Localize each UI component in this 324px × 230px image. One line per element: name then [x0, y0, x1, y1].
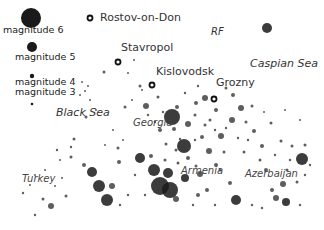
earthquake-dot: [163, 168, 173, 178]
legend-marker-icon: [31, 103, 34, 106]
earthquake-dot: [225, 127, 227, 129]
earthquake-dot: [165, 143, 168, 146]
earthquake-dot: [270, 188, 274, 192]
earthquake-dot: [177, 162, 180, 165]
city-label: Stavropol: [121, 42, 173, 53]
earthquake-dot: [122, 139, 124, 141]
earthquake-dot: [223, 151, 226, 154]
earthquake-dot: [133, 59, 135, 61]
earthquake-dot: [184, 92, 186, 94]
earthquake-dot: [127, 72, 129, 74]
earthquake-dot: [284, 109, 286, 111]
earthquake-dot: [65, 195, 68, 198]
earthquake-dot: [214, 108, 218, 112]
earthquake-dot: [104, 144, 106, 146]
earthquake-dot: [247, 139, 249, 141]
earthquake-dot: [134, 174, 136, 176]
earthquake-dot: [44, 169, 46, 171]
earthquake-dot: [22, 192, 24, 194]
earthquake-dot: [274, 154, 276, 156]
earthquake-dot: [112, 129, 114, 131]
earthquake-dot: [192, 204, 194, 206]
earthquake-dot: [119, 204, 121, 206]
earthquake-dot: [175, 105, 179, 109]
earthquake-dot: [197, 85, 199, 87]
earthquake-dot: [228, 181, 232, 185]
earthquake-dot: [259, 159, 262, 162]
earthquake-dot: [280, 181, 286, 187]
earthquake-dot: [117, 160, 121, 164]
earthquake-dot: [164, 159, 167, 162]
earthquake-dot: [59, 159, 61, 161]
city-label: Kislovodsk: [156, 66, 214, 77]
earthquake-dot: [177, 139, 191, 153]
earthquake-dot: [231, 195, 241, 205]
earthquake-dot: [172, 127, 176, 131]
earthquake-dot: [79, 94, 81, 96]
earthquake-dot: [144, 194, 146, 196]
earthquake-dot: [135, 153, 145, 163]
earthquake-dot: [149, 154, 153, 158]
earthquake-dot: [261, 207, 263, 209]
earthquake-dot: [131, 99, 133, 101]
earthquake-dot: [200, 135, 204, 139]
earthquake-dot: [175, 149, 178, 152]
earthquake-dot: [273, 195, 279, 201]
city-marker-icon: [88, 16, 93, 21]
region-label: Georgia: [133, 118, 172, 128]
earthquake-dot: [251, 105, 254, 108]
earthquake-dot: [141, 89, 143, 91]
earthquake-dot: [117, 147, 120, 150]
earthquake-dot: [296, 153, 308, 165]
earthquake-dot: [282, 198, 290, 206]
earthquake-dot: [73, 138, 76, 141]
earthquake-dot: [48, 203, 54, 209]
earthquake-dot: [109, 183, 115, 189]
earthquake-dot: [101, 194, 113, 206]
earthquake-dot: [289, 159, 291, 161]
earthquake-dot: [206, 148, 212, 154]
earthquake-dot: [229, 117, 235, 123]
earthquake-dot: [194, 139, 196, 141]
city-marker-icon: [212, 97, 217, 102]
earthquake-dot: [173, 196, 179, 202]
earthquake-dot: [54, 185, 56, 187]
earthquake-dot: [61, 177, 63, 179]
earthquake-dot: [143, 103, 149, 109]
earthquake-dot: [280, 140, 283, 143]
earthquake-dot: [214, 204, 216, 206]
earthquake-dot: [296, 181, 299, 184]
earthquake-dot: [309, 164, 311, 166]
earthquake-dot: [260, 144, 264, 148]
city-label: Rostov-on-Don: [100, 12, 181, 23]
earthquake-dot: [87, 167, 97, 177]
city-marker-icon: [150, 83, 155, 88]
region-label: Armenia: [181, 166, 223, 176]
earthquake-dot: [204, 124, 207, 127]
earthquake-dot: [299, 119, 301, 121]
region-label: RF: [211, 27, 224, 37]
city-markers: [88, 16, 217, 102]
earthquake-dot: [209, 119, 212, 122]
earthquake-dot: [34, 214, 36, 216]
earthquake-dot: [237, 137, 239, 139]
legend-label: magnitude 3: [15, 87, 75, 97]
earthquake-dot: [124, 106, 127, 109]
earthquake-dot: [89, 99, 91, 101]
earthquake-dot: [148, 164, 160, 176]
earthquake-dot: [103, 71, 106, 74]
earthquake-dot: [56, 149, 58, 151]
region-label: Black Sea: [56, 107, 110, 118]
earthquake-dot: [185, 121, 191, 127]
earthquake-dot: [245, 121, 248, 124]
earthquake-dot: [262, 23, 272, 33]
earthquake-dot: [93, 180, 105, 192]
earthquake-dot: [186, 156, 190, 160]
city-label: Grozny: [216, 77, 255, 88]
city-marker-icon: [116, 60, 121, 65]
region-label: Azerbaijan: [245, 169, 298, 179]
earthquake-dot: [139, 85, 142, 88]
earthquake-dot: [263, 111, 265, 113]
earthquake-dot: [194, 114, 197, 117]
earthquake-dot: [157, 96, 160, 99]
